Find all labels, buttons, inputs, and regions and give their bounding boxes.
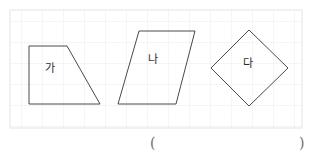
shape-label-na: 나 [148,54,158,65]
geometry-figures [0,0,312,161]
answer-blank-close-paren: ) [299,136,304,150]
shape-trapezoid-ga [29,46,100,104]
shape-parallelogram-na [118,31,195,104]
shape-label-ga: 가 [45,63,55,74]
worksheet-figure-panel: 가 나 다 ( ) [0,0,312,161]
shape-label-da: 다 [243,58,253,69]
answer-blank-open-paren: ( [150,136,155,150]
